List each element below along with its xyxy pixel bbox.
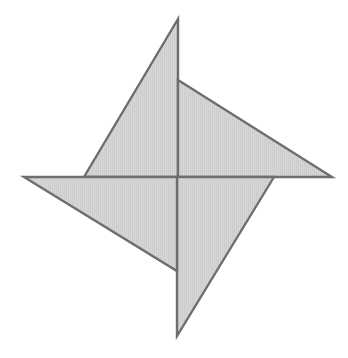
pinwheel-blades <box>24 19 332 336</box>
top-blade <box>84 19 178 177</box>
bottom-blade <box>177 177 274 336</box>
left-blade <box>24 177 177 271</box>
right-blade <box>178 80 332 177</box>
pinwheel-diagram <box>0 0 348 358</box>
